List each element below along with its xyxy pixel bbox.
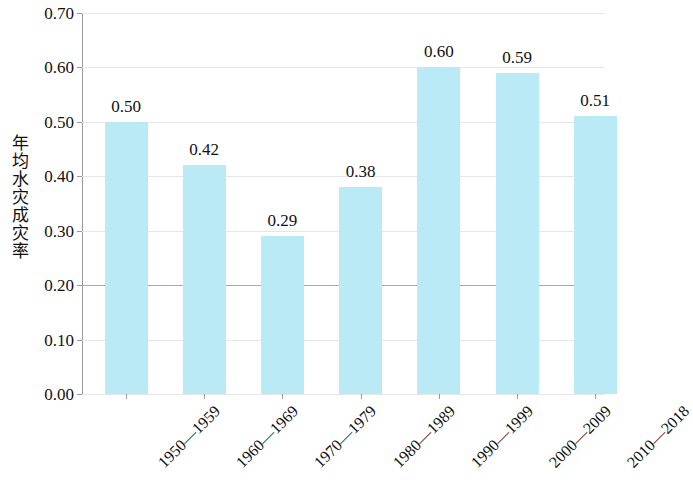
bar — [496, 73, 539, 394]
x-axis-tick-label: 1950—1959 — [155, 403, 223, 471]
bar — [261, 236, 304, 394]
y-axis-tick-label: 0.10 — [12, 332, 74, 349]
y-axis-tick-mark — [77, 122, 82, 123]
x-axis-tick-mark — [126, 394, 127, 399]
x-axis-tick-mark — [595, 394, 596, 399]
y-axis-tick-label: 0.40 — [12, 168, 74, 185]
bar-value-label: 0.59 — [482, 49, 552, 66]
x-axis-tick-label: 2010—2018 — [625, 403, 693, 471]
bar — [183, 165, 226, 394]
bar — [417, 67, 460, 394]
y-axis-tick-mark — [77, 285, 82, 286]
bar — [574, 116, 617, 394]
bar-value-label: 0.51 — [560, 92, 630, 109]
x-axis-tick-mark — [517, 394, 518, 399]
bar-value-label: 0.50 — [91, 98, 161, 115]
x-axis-tick-label: 1960—1969 — [234, 403, 302, 471]
bar — [339, 187, 382, 394]
x-axis-tick-mark — [282, 394, 283, 399]
bar-value-label: 0.42 — [169, 141, 239, 158]
plot-area: 0.500.420.290.380.600.590.51 — [82, 13, 605, 394]
y-axis-tick-mark — [77, 394, 82, 395]
y-axis-tick-label: 0.20 — [12, 277, 74, 294]
bar-value-label: 0.29 — [247, 212, 317, 229]
gridline — [82, 67, 605, 68]
y-axis-tick-label: 0.50 — [12, 114, 74, 131]
y-axis-tick-mark — [77, 340, 82, 341]
x-axis-tick-label: 2000—2009 — [546, 403, 614, 471]
y-axis-tick-label: 0.60 — [12, 59, 74, 76]
x-axis-tick-mark — [361, 394, 362, 399]
x-axis-tick-label: 1980—1989 — [390, 403, 458, 471]
y-axis-tick-label: 0.30 — [12, 223, 74, 240]
bar-value-label: 0.38 — [326, 163, 396, 180]
bar-value-label: 0.60 — [404, 43, 474, 60]
y-axis-tick-label: 0.70 — [12, 5, 74, 22]
y-axis-tick-mark — [77, 13, 82, 14]
y-axis-tick-mark — [77, 231, 82, 232]
gridline — [82, 394, 605, 395]
gridline — [82, 13, 605, 14]
x-axis-tick-label: 1990—1999 — [468, 403, 536, 471]
x-axis-tick-mark — [204, 394, 205, 399]
bar — [105, 122, 148, 394]
y-axis-tick-mark — [77, 67, 82, 68]
y-axis-tick-mark — [77, 176, 82, 177]
x-axis-tick-mark — [439, 394, 440, 399]
y-axis-tick-label: 0.00 — [12, 386, 74, 403]
y-axis-tick-labels: 0.000.100.200.300.400.500.600.70 — [12, 13, 76, 394]
x-axis-tick-label: 1970—1979 — [312, 403, 380, 471]
